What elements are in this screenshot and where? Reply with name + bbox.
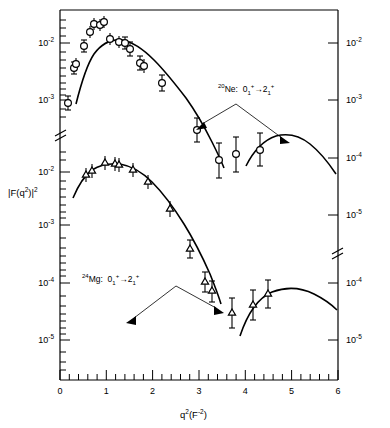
y-left-upper-label-0: 10-2: [38, 36, 54, 48]
mg24-label: 24Mg: 01+→21+: [82, 273, 140, 286]
mg24-fit-curve: [73, 164, 337, 336]
ne20-element: Ne:: [225, 84, 238, 94]
x-tick-6: 6: [335, 386, 340, 396]
y-left-upper-label-1: 10-3: [38, 93, 54, 105]
mg24-markers: [82, 159, 271, 315]
mg24-to-sup: +: [136, 273, 140, 279]
mg24-data-points: [86, 156, 271, 328]
svg-text:|F(q2)|2: |F(q2)|2: [8, 186, 38, 198]
y-right-upper-label-1: 10-3: [346, 93, 362, 105]
y-left-lower-label-0: 10-2: [38, 165, 54, 177]
plot-svg: 0 1 2 3 4 5 6 q2(F-2) |F(q2)|2: [0, 0, 390, 428]
x-axis-tick-labels: 0 1 2 3 4 5 6: [57, 386, 340, 396]
mg24-from-sub: 1: [112, 280, 116, 286]
x-tick-4: 4: [243, 386, 248, 396]
form-factor-figure: 0 1 2 3 4 5 6 q2(F-2) |F(q2)|2: [0, 0, 390, 428]
svg-text:24Mg: 01+→21+: 24Mg: 01+→21+: [82, 273, 140, 286]
mg24-arrow: →: [119, 274, 128, 284]
y-left-lower-label-1: 10-3: [38, 218, 54, 230]
x-tick-5: 5: [289, 386, 294, 396]
y-right-lower-label-1: 10-5: [346, 333, 362, 345]
y-right-tick-labels: 10-2 10-3 10-4 10-5 10-4 10-5: [346, 36, 362, 345]
x-title-close: ): [204, 409, 207, 420]
y-right-lower-label-0: 10-4: [346, 276, 362, 288]
svg-text:20Ne: 01+→21+: 20Ne: 01+→21+: [218, 83, 275, 96]
y-right-ticks: [328, 43, 338, 340]
ne20-to-sub: 1: [267, 90, 271, 96]
ne20-arrow: →: [254, 84, 263, 94]
y-left-lower-label-3: 10-5: [38, 333, 54, 345]
ne20-to-sup: +: [271, 83, 275, 89]
y-right-upper-label-3: 10-5: [346, 208, 362, 220]
ne20-from-sub: 1: [247, 90, 251, 96]
svg-text:q2(F-2): q2(F-2): [180, 408, 207, 420]
mg24-element: Mg:: [89, 274, 103, 284]
y-title-pre: |F(: [8, 187, 20, 198]
y-axis-title: |F(q2)|2: [8, 186, 38, 198]
y-right-upper-label-0: 10-2: [346, 36, 362, 48]
y-left-lower-label-2: 10-4: [38, 276, 54, 288]
x-tick-0: 0: [57, 386, 62, 396]
plot-frame: [60, 10, 338, 380]
y-left-ticks: [60, 20, 70, 370]
ne20-label: 20Ne: 01+→21+: [218, 83, 275, 96]
x-axis-title: q2(F-2): [180, 408, 207, 420]
y-right-upper-label-2: 10-4: [346, 151, 362, 163]
x-tick-2: 2: [150, 386, 155, 396]
x-title-unit: (F: [189, 409, 198, 420]
y-left-tick-labels: 10-2 10-3 10-2 10-3 10-4 10-5: [38, 36, 54, 345]
x-tick-3: 3: [196, 386, 201, 396]
x-axis-ticks: [60, 370, 338, 380]
ne20-fit-curve: [76, 40, 336, 174]
x-tick-1: 1: [104, 386, 109, 396]
y-title-sup: 2: [34, 186, 38, 193]
mg24-to-sub: 1: [132, 280, 136, 286]
